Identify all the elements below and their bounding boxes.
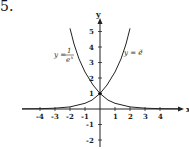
x-tick-label: -2 — [66, 112, 74, 121]
exponential-chart: x y -4 -3 -2 -1 1 2 3 4 5 4 3 2 1 -1 -2 … — [0, 0, 189, 149]
svg-text:x: x — [140, 47, 143, 53]
series-exp-x-curve — [22, 28, 130, 108]
y-tick-label: -2 — [86, 136, 94, 145]
svg-text:y =: y = — [53, 51, 66, 59]
x-tick-label: 4 — [158, 112, 163, 121]
series-exp-neg-x-curve — [70, 28, 178, 108]
x-tick-label: 3 — [143, 112, 148, 121]
x-axis-label: x — [186, 104, 189, 114]
label-exp-x: y = e x — [123, 47, 143, 57]
svg-text:x: x — [71, 54, 74, 60]
y-tick-label: 4 — [89, 43, 94, 52]
label-exp-neg-x: y = 1 e x — [53, 47, 74, 64]
x-tick-label: -3 — [51, 112, 59, 121]
y-axis-label: y — [95, 9, 101, 19]
intersection-point — [98, 92, 101, 95]
x-axis-arrow-icon — [178, 107, 184, 112]
y-tick-label: -1 — [86, 120, 94, 129]
x-tick-label: -4 — [36, 112, 44, 121]
x-tick-label: 1 — [113, 112, 118, 121]
y-tick-label: 5 — [89, 27, 94, 36]
x-tick-label: 2 — [128, 112, 133, 121]
y-tick-label: 3 — [89, 58, 94, 67]
y-tick-label: 1 — [89, 89, 94, 98]
